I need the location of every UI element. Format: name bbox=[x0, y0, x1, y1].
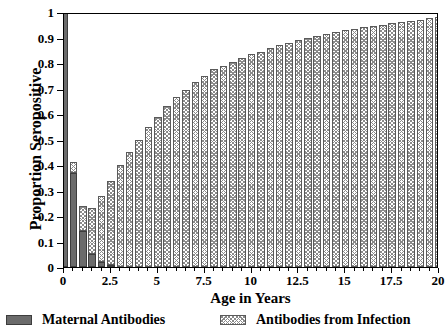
bar-segment-infection bbox=[238, 58, 246, 267]
bar-segment-maternal bbox=[88, 254, 96, 267]
bar-segment-infection bbox=[220, 66, 228, 267]
x-minor-tick-mark bbox=[101, 268, 102, 271]
bar-group bbox=[257, 52, 265, 267]
legend-item-maternal-antibodies: Maternal Antibodies bbox=[6, 312, 165, 328]
bar-group bbox=[398, 22, 406, 267]
bar-group bbox=[135, 140, 143, 268]
bar-group bbox=[70, 162, 78, 267]
x-minor-tick-mark bbox=[119, 268, 120, 271]
x-tick-label: 0 bbox=[60, 274, 67, 288]
bar-group bbox=[88, 208, 96, 267]
bar-group bbox=[145, 127, 153, 267]
x-minor-tick-mark bbox=[279, 268, 280, 271]
legend-swatch-infection-icon bbox=[220, 315, 246, 325]
bar-segment-infection bbox=[342, 30, 350, 267]
bar-segment-infection bbox=[154, 117, 162, 267]
legend-swatch-maternal-icon bbox=[6, 315, 32, 325]
bar-group bbox=[304, 38, 312, 268]
y-tick-label: 0.7 bbox=[38, 83, 54, 96]
bar-segment-infection bbox=[145, 127, 153, 267]
y-tick-label: 0.2 bbox=[38, 210, 54, 223]
bar-segment-infection bbox=[276, 45, 284, 267]
x-tick-label: 15 bbox=[338, 274, 351, 288]
bar-group bbox=[379, 25, 387, 267]
x-minor-tick-mark bbox=[166, 268, 167, 271]
bar-segment-infection bbox=[313, 36, 321, 267]
x-minor-tick-mark bbox=[194, 268, 195, 271]
bar-group bbox=[126, 152, 134, 267]
bar-group bbox=[313, 36, 321, 267]
bar-group bbox=[63, 13, 68, 267]
x-tick-label: 20 bbox=[432, 274, 445, 288]
x-tick-label: 2.5 bbox=[102, 274, 118, 288]
bar-segment-infection bbox=[98, 196, 106, 262]
bar-segment-infection bbox=[257, 52, 265, 267]
x-minor-tick-mark bbox=[316, 268, 317, 271]
bar-segment-maternal bbox=[107, 265, 115, 267]
x-minor-tick-mark bbox=[410, 268, 411, 271]
x-minor-tick-mark bbox=[222, 268, 223, 271]
bar-group bbox=[182, 90, 190, 267]
bar-group bbox=[79, 206, 87, 267]
bar-segment-infection bbox=[267, 48, 275, 267]
bar-segment-infection bbox=[285, 43, 293, 267]
x-minor-tick-mark bbox=[72, 268, 73, 271]
bar-group bbox=[210, 69, 218, 267]
x-minor-tick-mark bbox=[129, 268, 130, 271]
x-minor-tick-mark bbox=[354, 268, 355, 271]
x-minor-tick-mark bbox=[419, 268, 420, 271]
bar-group bbox=[360, 27, 368, 267]
bar-group bbox=[295, 40, 303, 267]
bar-group bbox=[248, 54, 256, 267]
bar-segment-infection bbox=[229, 62, 237, 267]
bar-segment-maternal bbox=[79, 231, 87, 267]
x-minor-tick-mark bbox=[82, 268, 83, 271]
bar-segment-maternal bbox=[98, 262, 106, 267]
bar-group bbox=[407, 21, 415, 267]
bar-group bbox=[238, 58, 246, 267]
bar-segment-infection bbox=[126, 152, 134, 267]
bar-group bbox=[163, 106, 171, 267]
bar-group bbox=[388, 23, 396, 267]
bar-segment-infection bbox=[182, 90, 190, 267]
y-tick-label: 0.9 bbox=[38, 32, 54, 45]
bar-group bbox=[154, 117, 162, 267]
bar-segment-infection bbox=[173, 97, 181, 267]
bar-group bbox=[276, 45, 284, 267]
x-minor-tick-mark bbox=[363, 268, 364, 271]
x-minor-tick-mark bbox=[176, 268, 177, 271]
x-minor-tick-mark bbox=[382, 268, 383, 271]
plot-area bbox=[63, 13, 438, 268]
legend-label-infection: Antibodies from Infection bbox=[256, 312, 411, 328]
chart-legend: Maternal Antibodies Antibodies from Infe… bbox=[0, 312, 446, 332]
x-minor-tick-mark bbox=[213, 268, 214, 271]
x-minor-tick-mark bbox=[269, 268, 270, 271]
x-minor-tick-mark bbox=[260, 268, 261, 271]
bar-segment-infection bbox=[407, 21, 415, 267]
bar-segment-infection bbox=[201, 76, 209, 267]
bar-segment-infection bbox=[351, 29, 359, 267]
bar-group bbox=[417, 20, 425, 267]
bar-segment-infection bbox=[426, 18, 434, 267]
bar-group bbox=[173, 97, 181, 267]
bar-group bbox=[98, 196, 106, 267]
bar-group bbox=[370, 26, 378, 267]
bar-segment-maternal bbox=[70, 173, 78, 267]
x-minor-tick-mark bbox=[138, 268, 139, 271]
bar-segment-infection bbox=[79, 206, 87, 232]
bar-group bbox=[117, 165, 125, 267]
bar-segment-infection bbox=[248, 54, 256, 267]
bar-segment-infection bbox=[70, 162, 78, 172]
bar-segment-infection bbox=[295, 40, 303, 267]
bar-segment-infection bbox=[370, 26, 378, 267]
legend-item-antibodies-from-infection: Antibodies from Infection bbox=[220, 312, 411, 328]
bar-group bbox=[107, 181, 115, 267]
bar-group bbox=[267, 48, 275, 267]
x-minor-tick-mark bbox=[372, 268, 373, 271]
bar-group bbox=[426, 18, 434, 267]
bar-segment-infection bbox=[332, 32, 340, 267]
bars-layer bbox=[64, 14, 437, 267]
y-tick-label: 0.1 bbox=[38, 236, 54, 249]
x-minor-tick-mark bbox=[326, 268, 327, 271]
bar-segment-infection bbox=[117, 165, 125, 267]
